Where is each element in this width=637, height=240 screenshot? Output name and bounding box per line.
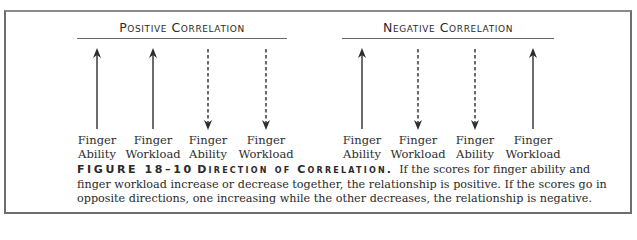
down-arrow-icon — [471, 49, 479, 130]
up-arrow-icon — [358, 48, 366, 129]
up-arrow-icon — [529, 48, 537, 129]
up-arrow-icon — [149, 48, 157, 129]
figure-caption: FIGURE 18–10 Direction of Correlation.If… — [77, 163, 622, 207]
negative-label-4: FingerWorkload — [498, 133, 568, 161]
down-arrow-icon — [414, 49, 422, 130]
figure-number: FIGURE 18–10 — [77, 163, 194, 176]
down-arrow-icon — [204, 49, 212, 130]
figure-title: Direction of Correlation. — [197, 163, 393, 176]
down-arrow-icon — [262, 49, 270, 130]
up-arrow-icon — [93, 48, 101, 129]
positive-label-4: FingerWorkload — [231, 133, 301, 161]
